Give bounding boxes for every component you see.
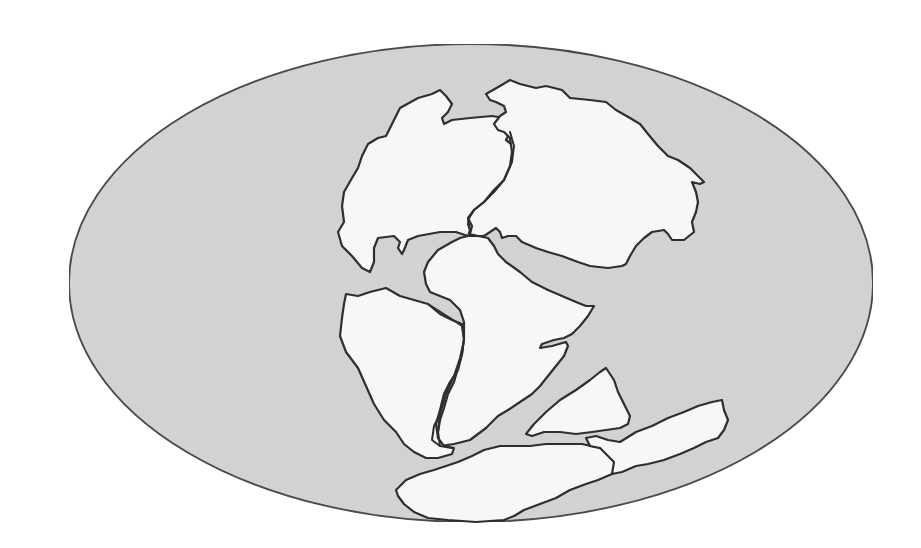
world-map-svg: [0, 0, 921, 548]
map-figure: [0, 0, 921, 548]
